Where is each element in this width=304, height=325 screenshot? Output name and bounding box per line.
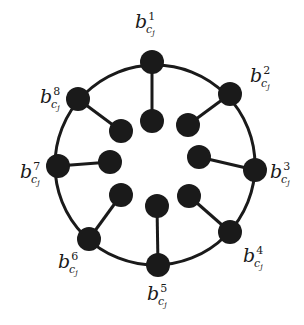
inner-node-b5 (145, 194, 169, 218)
inner-node-b1 (140, 109, 164, 133)
label-b6: b6cj (58, 250, 78, 277)
outer-node-b8 (66, 87, 90, 111)
label-b2: b2cj (250, 64, 270, 91)
label-b8: b8cj (40, 85, 60, 112)
inner-node-b8 (109, 119, 133, 143)
label-b1: b1cj (135, 10, 155, 37)
label-b7: b7cj (20, 160, 40, 187)
label-b3: b3cj (270, 160, 290, 187)
outer-node-b6 (77, 227, 101, 251)
outer-node-b5 (146, 253, 170, 277)
inner-node-b3 (187, 145, 211, 169)
inner-node-b4 (177, 184, 201, 208)
inner-node-b2 (176, 113, 200, 137)
outer-node-b3 (243, 158, 267, 182)
outer-node-b7 (46, 154, 70, 178)
label-b4: b4cj (243, 244, 263, 271)
inner-node-b7 (98, 150, 122, 174)
label-b5: b5cj (147, 282, 167, 309)
outer-node-b1 (140, 50, 164, 74)
inner-node-b6 (109, 183, 133, 207)
wheel-graph-diagram: b1cjb2cjb3cjb4cjb5cjb6cjb7cjb8cj (0, 0, 304, 325)
outer-node-b4 (218, 220, 242, 244)
outer-node-b2 (218, 82, 242, 106)
